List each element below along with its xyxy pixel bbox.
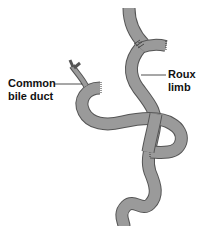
roux-limb-label: Roux limb [168, 68, 196, 94]
roux-limb-overlap [148, 114, 156, 152]
diagram-canvas [0, 0, 200, 226]
proximal-bowel-segment [129, 8, 144, 44]
common-bile-duct [70, 60, 86, 86]
hepaticojejunal-limb [82, 82, 181, 158]
common-bile-duct-label: Common bile duct [8, 77, 56, 103]
blind-end-stub [140, 41, 166, 51]
